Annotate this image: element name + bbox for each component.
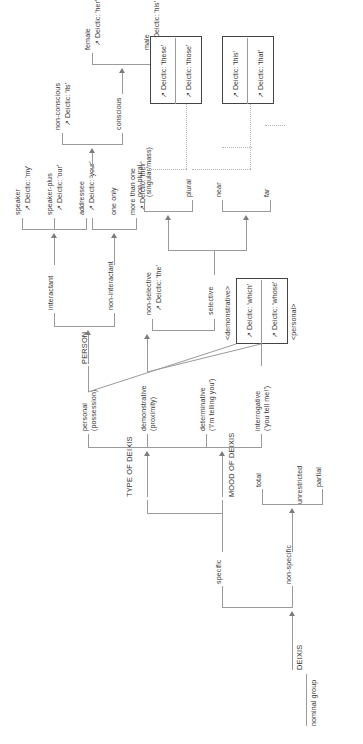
term-speaker-plus: speaker-plus — [46, 173, 54, 215]
arrow-icon-those: ↗ — [185, 92, 193, 98]
feature-personal: <personal> — [290, 304, 298, 341]
brace-proximity — [246, 237, 247, 251]
dotted-near — [222, 147, 252, 148]
brace-type-of-deixis — [147, 500, 148, 514]
realisation-my: ↗ Deictic: 'my' — [23, 166, 32, 211]
proximity-bracket — [222, 211, 270, 212]
branch-plural — [192, 200, 193, 212]
entry-rank-label: nominal group — [310, 680, 318, 726]
arrow-icon-her: ↗ — [94, 40, 102, 46]
term-demonstrative-gloss: (proximity) — [149, 397, 157, 431]
type-of-deixis-arrow — [144, 451, 150, 456]
term-personal-gloss: (possession) — [90, 390, 98, 431]
branch-speaker-plus — [54, 218, 55, 230]
branch-female — [92, 53, 93, 65]
realisation-its: ↗ Deictic: 'its' — [63, 83, 72, 126]
realisation-which: ↗ Deictic: 'which' — [245, 284, 254, 338]
system-unrestricted-label: unrestricted — [296, 466, 304, 504]
arrow-icon-my: ↗ — [24, 205, 32, 211]
branch-personal — [88, 434, 89, 448]
box-these-those-divider — [175, 38, 176, 104]
one-only-line — [92, 152, 93, 178]
branch-partial — [322, 489, 323, 505]
conscious-bracket — [92, 64, 150, 65]
branch-interrogative — [261, 434, 262, 448]
type-of-deixis-line — [147, 455, 148, 497]
dotted-plural — [192, 169, 250, 170]
arrow-icon-its: ↗ — [64, 120, 72, 126]
proximity-line — [246, 219, 247, 237]
specific-line — [222, 514, 223, 552]
realisation-arrow-icon: ↗ — [246, 332, 254, 338]
term-plural: plural — [185, 179, 193, 197]
mood-of-deixis-arrow — [219, 451, 225, 456]
deixis-bracket — [222, 607, 292, 608]
interrogative-realisation-box — [236, 278, 288, 344]
number-bracket — [144, 211, 192, 212]
term-non-interactant: non-interactant — [107, 261, 115, 310]
entry-system-line — [292, 614, 293, 670]
one-only-arrow — [89, 148, 95, 153]
realisation-these: ↗ Deictic: 'these' — [159, 45, 168, 98]
entry-rank-line — [306, 674, 307, 726]
branch-one-only — [92, 218, 93, 230]
demonstrative-bracket — [152, 330, 214, 331]
brace-mood-of-deixis — [222, 500, 223, 514]
feature-demonstrative: <demonstrative> — [224, 286, 232, 340]
realisation-that: ↗ Deictic: 'that' — [256, 50, 265, 98]
box-this-that — [222, 36, 274, 104]
realisation-whose: ↗ Deictic: 'whose' — [270, 282, 279, 338]
dotted-far — [265, 125, 285, 126]
branch-selective — [214, 319, 215, 331]
person-line — [88, 334, 89, 364]
realisation-those: ↗ Deictic: 'those' — [184, 45, 193, 98]
demonstrative-line — [147, 338, 148, 372]
term-addressee: addressee — [78, 181, 86, 215]
term-specific: specific — [215, 560, 223, 584]
person-arrow — [85, 330, 91, 335]
arrow-icon-these: ↗ — [160, 92, 168, 98]
interrogative-to-box — [261, 344, 262, 366]
term-personal: personal — [81, 403, 89, 431]
proximity-arrow — [243, 215, 249, 220]
box-divider — [261, 280, 262, 344]
arrow-icon-this: ↗ — [232, 92, 240, 98]
system-network: nominal group DEIXIS specific non-specif… — [0, 0, 363, 744]
brace-number — [168, 237, 169, 251]
term-female: female — [84, 28, 92, 50]
non-interactant-line — [114, 237, 115, 265]
branch-demonstrative — [147, 434, 148, 448]
term-selective: selective — [207, 287, 215, 316]
branch-conscious — [122, 133, 123, 145]
demonstrative-arrow — [144, 334, 150, 339]
arrow-icon-the: ↗ — [155, 305, 163, 311]
branch-interactant — [54, 313, 55, 327]
number-line — [168, 219, 169, 237]
term-non-conscious: non-conscious — [54, 83, 62, 130]
dotted-nonplural — [144, 169, 186, 170]
term-near: near — [215, 182, 223, 197]
branch-determinative — [206, 434, 207, 448]
conscious-arrow — [119, 68, 125, 73]
term-determinative-gloss: ('I'm telling you') — [208, 379, 216, 431]
branch-total — [262, 489, 263, 505]
branch-addressee — [86, 218, 87, 230]
system-mood-of-deixis: MOOD OF DEIXIS — [228, 433, 236, 497]
entry-system-arrow — [289, 611, 295, 616]
nonspecific-line — [292, 512, 293, 552]
specific-simul-brace — [147, 513, 222, 514]
arrow-icon-that: ↗ — [257, 92, 265, 98]
selective-simul-brace — [168, 250, 246, 251]
branch-non-plural — [144, 200, 145, 212]
system-type-of-deixis: TYPE OF DEIXIS — [126, 436, 134, 497]
conscious-line — [122, 72, 123, 94]
realisation-arrow-icon-2: ↗ — [271, 332, 279, 338]
diagram-canvas: nominal group DEIXIS specific non-specif… — [0, 0, 363, 744]
term-conscious: conscious — [115, 98, 123, 130]
box-these-those — [150, 36, 202, 104]
term-one-only: one only — [110, 187, 118, 215]
term-demonstrative: demonstrative — [140, 385, 148, 431]
arrow-icon-your: ↗ — [88, 205, 96, 211]
term-determinative: determinative — [199, 387, 207, 431]
nonspecific-arrow — [289, 508, 295, 513]
